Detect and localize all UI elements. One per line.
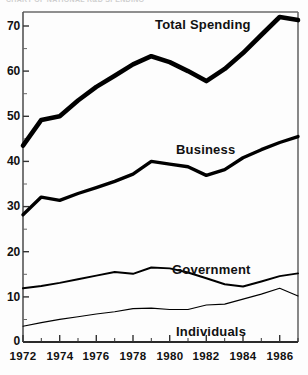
x-tick-label-1980: 1980 xyxy=(150,350,190,362)
x-tick-label-1976: 1976 xyxy=(76,350,116,362)
series-line-business xyxy=(23,137,298,215)
y-tick-label-10: 10 xyxy=(0,290,20,304)
x-tick-label-1978: 1978 xyxy=(113,350,153,362)
y-tick-label-50: 50 xyxy=(0,109,20,123)
y-tick-label-30: 30 xyxy=(0,199,20,213)
y-tick-label-20: 20 xyxy=(0,245,20,259)
rd-spending-line-chart: CHART OF NATIONAL R&D SPENDING xyxy=(0,0,308,375)
y-tick-label-60: 60 xyxy=(0,64,20,78)
x-tick-label-1986: 1986 xyxy=(260,350,300,362)
series-line-total-spending xyxy=(23,17,298,146)
x-axis-ticks xyxy=(23,335,298,342)
x-tick-label-1974: 1974 xyxy=(40,350,80,362)
series-label-individuals: Individuals xyxy=(176,324,246,339)
series-label-government: Government xyxy=(172,262,251,277)
plot-canvas xyxy=(0,0,308,375)
series-line-individuals xyxy=(23,288,298,326)
x-tick-label-1972: 1972 xyxy=(3,350,43,362)
series-label-total-spending: Total Spending xyxy=(155,17,251,32)
x-tick-label-1982: 1982 xyxy=(186,350,226,362)
series-line-government xyxy=(23,268,298,289)
y-tick-label-0: 0 xyxy=(0,334,20,348)
series-label-business: Business xyxy=(176,142,235,157)
x-tick-label-1984: 1984 xyxy=(223,350,263,362)
y-tick-label-40: 40 xyxy=(0,154,20,168)
y-tick-label-70: 70 xyxy=(0,19,20,33)
